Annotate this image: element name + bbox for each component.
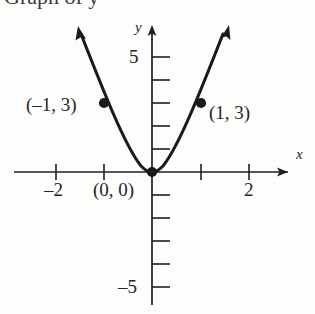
x-axis-label: x <box>296 147 303 162</box>
parabola-figure: Graph of y = <box>0 0 315 314</box>
y-tick-label-5: 5 <box>129 47 139 66</box>
point-marker-1-3 <box>196 98 206 108</box>
y-axis-label: y <box>135 20 142 35</box>
point-label-1-3: (1, 3) <box>209 103 250 122</box>
parabola-left-arrowhead <box>76 26 87 41</box>
point-marker-neg1-3 <box>99 98 109 108</box>
point-marker-0-0 <box>147 167 157 177</box>
x-tick-label-2: 2 <box>244 180 254 199</box>
point-label-0-0: (0, 0) <box>93 180 134 199</box>
x-tick-label-neg2: –2 <box>44 180 63 199</box>
y-tick-label-neg5: –5 <box>118 277 137 296</box>
point-label-neg1-3: (–1, 3) <box>26 95 77 114</box>
coordinate-plane <box>0 0 315 314</box>
